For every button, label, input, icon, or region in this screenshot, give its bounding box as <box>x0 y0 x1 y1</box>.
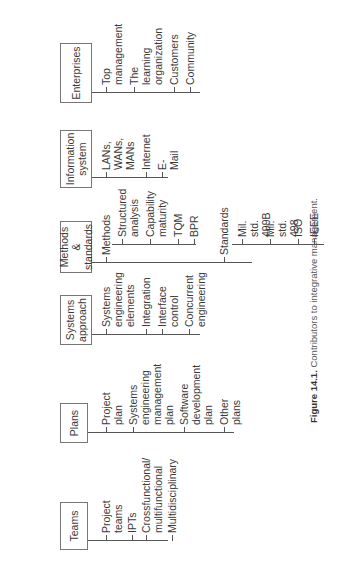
figure-caption: Figure 14.1. Contributors to integrative… <box>308 198 319 423</box>
figure-caption-text: Contributors to integrative management. <box>308 198 319 368</box>
methods-item: Capability maturity <box>144 191 168 245</box>
systems-approach-item: Interface control <box>156 286 180 335</box>
systems-approach-item: Systems engineering elements <box>100 272 136 335</box>
enterprises-box: Enterprises <box>60 43 92 103</box>
information-system-item: Internet <box>140 134 152 178</box>
systems-approach-box: Systems approach <box>60 295 92 345</box>
enterprises-item: Top management <box>100 24 124 93</box>
information-system-box: Information system <box>60 130 92 188</box>
standards-item: ISO <box>292 219 304 245</box>
plans-item: Other plans <box>218 399 242 433</box>
enterprises-item: Customers <box>168 34 180 93</box>
integrative-management-diagram: Teams Project teams IPTs Crossfunctional… <box>0 0 358 563</box>
methods-item: TQM <box>172 214 184 245</box>
plans-item: Project plan <box>100 392 124 433</box>
plans-box: Plans <box>60 403 88 443</box>
methods-group-label: Methods <box>100 215 112 263</box>
enterprises-item: Community <box>184 32 196 93</box>
systems-approach-item: Concurrent engineering <box>183 272 207 335</box>
methods-item: Structured analysis <box>116 189 140 245</box>
teams-item: Project teams <box>100 500 124 541</box>
methods-item: BPR <box>188 215 200 245</box>
information-system-item: LANs, WANs, MANs <box>100 138 136 178</box>
standards-group-label: Standards <box>218 207 230 263</box>
plans-item: Software development plan <box>178 365 214 433</box>
teams-box: Teams <box>60 502 88 550</box>
enterprises-item: The learning organization <box>128 28 164 93</box>
teams-item: IPTs <box>126 513 138 541</box>
systems-approach-item: Integration <box>140 277 152 335</box>
teams-item: Multidisciplinary <box>166 459 178 541</box>
plans-item: Systems engineering management plan <box>127 364 175 433</box>
information-system-item: E-Mail <box>156 151 180 178</box>
figure-caption-label: Figure 14.1. <box>308 370 319 423</box>
teams-item: Crossfunctional/ multifunctional <box>140 458 164 541</box>
methods-standards-box: Methods & standards <box>60 221 92 273</box>
